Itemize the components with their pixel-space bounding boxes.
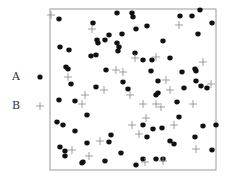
data-point-a — [160, 39, 165, 44]
data-point-a — [155, 91, 160, 96]
data-point-b — [189, 100, 197, 108]
data-point-a — [193, 79, 198, 84]
data-point-a — [120, 80, 125, 85]
data-point-a — [129, 11, 134, 16]
data-point-b — [126, 91, 134, 99]
legend-label-a: A — [12, 71, 20, 82]
data-point-a — [114, 11, 119, 16]
series-a-dots — [54, 8, 218, 168]
data-point-a — [176, 115, 181, 120]
scatter-plot — [0, 0, 228, 180]
data-point-a — [80, 160, 85, 165]
data-point-a — [179, 70, 184, 75]
data-point-b — [88, 25, 96, 33]
legend-dot-icon — [37, 74, 42, 79]
plot-frame — [50, 9, 216, 170]
data-point-a — [144, 24, 149, 29]
data-point-a — [57, 45, 62, 50]
data-point-a — [108, 133, 113, 138]
data-point-a — [149, 58, 154, 63]
data-point-b — [85, 152, 93, 160]
data-point-b — [128, 121, 136, 129]
data-point-b — [162, 76, 170, 84]
data-point-a — [204, 86, 209, 91]
data-point-b — [78, 100, 86, 108]
data-point-a — [192, 135, 197, 140]
data-point-b — [142, 114, 150, 122]
data-point-a — [84, 113, 89, 118]
data-point-b — [166, 86, 174, 94]
data-point-a — [189, 14, 194, 19]
data-point-b — [68, 146, 76, 154]
legend-cross-icon — [36, 102, 44, 110]
data-point-a — [171, 142, 176, 147]
data-point-a — [153, 157, 158, 162]
series-b-crosses — [47, 11, 215, 166]
data-point-a — [65, 67, 70, 72]
data-point-a — [106, 33, 111, 38]
data-point-b — [47, 11, 55, 19]
data-point-a — [102, 38, 107, 43]
legend-label-b: B — [12, 100, 20, 111]
data-point-b — [100, 86, 108, 94]
data-point-a — [144, 135, 149, 140]
data-point-a — [209, 21, 214, 26]
data-point-a — [106, 140, 111, 145]
data-point-a — [198, 84, 203, 89]
data-point-a — [133, 27, 138, 32]
data-point-a — [177, 14, 182, 19]
data-point-a — [200, 124, 205, 129]
data-point-a — [60, 123, 65, 128]
data-point-b — [64, 73, 72, 81]
data-point-a — [56, 98, 61, 103]
data-point-a — [72, 99, 77, 104]
data-point-a — [155, 79, 160, 84]
data-point-a — [102, 159, 107, 164]
data-point-a — [68, 82, 73, 87]
data-point-b — [159, 157, 167, 165]
data-point-a — [84, 141, 89, 146]
data-point-a — [193, 69, 198, 74]
data-point-a — [116, 45, 121, 50]
data-point-a — [93, 53, 98, 58]
data-point-a — [54, 120, 59, 125]
data-point-a — [167, 56, 172, 61]
data-point-a — [213, 123, 218, 128]
data-point-a — [140, 123, 145, 128]
data-point-a — [115, 49, 120, 54]
data-point-a — [148, 69, 153, 74]
data-point-a — [140, 58, 145, 63]
data-point-b — [81, 91, 89, 99]
data-point-a — [57, 145, 62, 150]
data-point-b — [199, 58, 207, 66]
data-point-a — [209, 148, 214, 153]
data-point-a — [62, 149, 67, 154]
data-point-a — [150, 127, 155, 132]
data-point-b — [96, 137, 104, 145]
data-point-a — [125, 87, 130, 92]
data-point-a — [90, 21, 95, 26]
data-point-a — [72, 129, 77, 134]
data-point-a — [174, 100, 179, 105]
data-point-b — [119, 68, 127, 76]
data-point-a — [181, 86, 186, 91]
data-point-b — [139, 100, 147, 108]
data-point-a — [195, 32, 200, 37]
data-point-a — [88, 54, 93, 59]
data-point-a — [133, 163, 138, 168]
data-point-a — [119, 32, 124, 37]
data-point-b — [112, 66, 120, 74]
data-point-b — [175, 21, 183, 29]
data-point-a — [118, 151, 123, 156]
data-point-a — [62, 154, 67, 159]
data-point-b — [170, 121, 178, 129]
data-point-a — [95, 41, 100, 46]
data-point-a — [130, 15, 135, 20]
data-point-a — [56, 17, 61, 22]
data-point-a — [159, 126, 164, 131]
data-point-a — [197, 8, 202, 13]
data-point-b — [135, 130, 143, 138]
data-point-b — [131, 54, 139, 62]
data-point-b — [192, 145, 200, 153]
data-point-a — [66, 48, 71, 53]
